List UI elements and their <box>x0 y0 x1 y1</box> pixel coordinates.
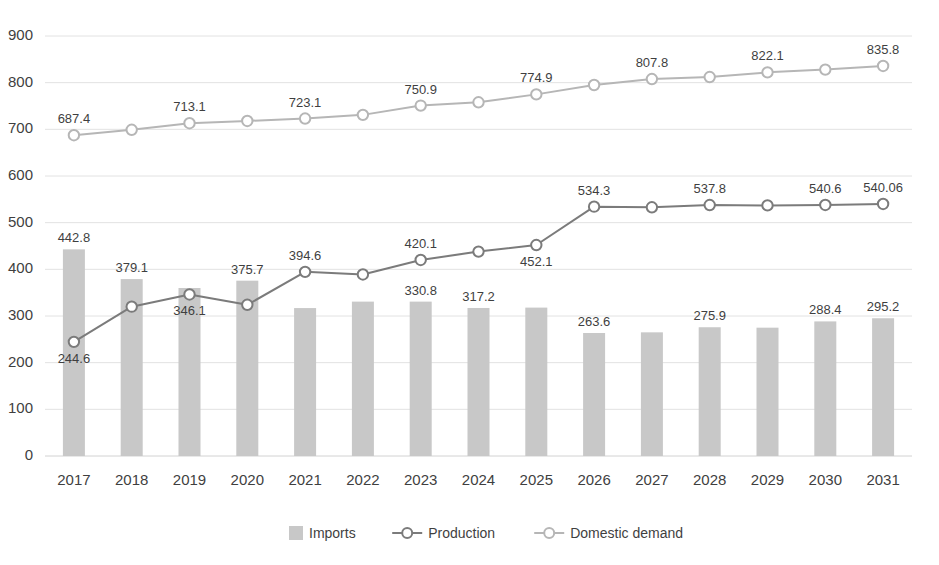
data-label-imports: 375.7 <box>231 262 264 277</box>
y-axis-tick-label: 400 <box>8 259 33 276</box>
combo-chart: 0100200300400500600700800900 442.8379.13… <box>0 0 939 565</box>
data-label-imports: 275.9 <box>693 308 726 323</box>
x-axis-tick-label: 2021 <box>288 471 321 488</box>
marker-domestic-demand <box>416 100 426 110</box>
bar-imports <box>583 333 605 456</box>
marker-domestic-demand <box>358 110 368 120</box>
marker-domestic-demand <box>878 61 888 71</box>
marker-production <box>127 301 137 311</box>
marker-domestic-demand <box>242 116 252 126</box>
x-axis-tick-label: 2029 <box>751 471 784 488</box>
marker-domestic-demand <box>705 72 715 82</box>
legend-circle-marker-icon <box>402 528 412 538</box>
marker-domestic-demand <box>531 89 541 99</box>
data-label-domestic-demand: 723.1 <box>289 95 322 110</box>
marker-domestic-demand <box>127 125 137 135</box>
y-axis-tick-label: 800 <box>8 73 33 90</box>
data-label-production: 394.6 <box>289 248 322 263</box>
data-label-imports: 317.2 <box>462 289 495 304</box>
marker-production <box>878 199 888 209</box>
chart-legend[interactable]: ImportsProductionDomestic demand <box>289 525 683 541</box>
x-axis-tick-label: 2030 <box>809 471 842 488</box>
marker-production <box>184 289 194 299</box>
marker-domestic-demand <box>473 97 483 107</box>
marker-production <box>820 200 830 210</box>
data-label-imports: 295.2 <box>867 299 900 314</box>
x-axis-tick-label: 2024 <box>462 471 495 488</box>
marker-domestic-demand <box>300 113 310 123</box>
marker-production <box>242 300 252 310</box>
marker-domestic-demand <box>820 64 830 74</box>
data-label-imports: 442.8 <box>58 230 91 245</box>
marker-production <box>531 240 541 250</box>
y-axis-tick-label: 500 <box>8 213 33 230</box>
y-axis-tick-label: 0 <box>25 446 33 463</box>
data-label-imports: 263.6 <box>578 314 611 329</box>
legend-item-domestic-demand[interactable]: Domestic demand <box>534 525 683 541</box>
bar-imports <box>757 328 779 456</box>
data-label-production: 420.1 <box>404 236 437 251</box>
marker-production <box>300 267 310 277</box>
legend-swatch-icon <box>289 526 303 540</box>
data-label-domestic-demand: 835.8 <box>867 42 900 57</box>
marker-production <box>358 269 368 279</box>
y-axis-tick-label: 100 <box>8 399 33 416</box>
legend-label: Production <box>428 525 495 541</box>
data-label-production: 540.06 <box>863 180 903 195</box>
data-label-domestic-demand: 822.1 <box>751 48 784 63</box>
data-label-domestic-demand: 807.8 <box>636 55 669 70</box>
x-axis-tick-label: 2020 <box>231 471 264 488</box>
marker-production <box>473 246 483 256</box>
marker-domestic-demand <box>762 67 772 77</box>
marker-production <box>69 337 79 347</box>
legend-item-production[interactable]: Production <box>392 525 495 541</box>
legend-label: Imports <box>309 525 356 541</box>
marker-production <box>705 200 715 210</box>
x-axis-tick-label: 2018 <box>115 471 148 488</box>
bar-imports <box>699 327 721 456</box>
x-axis-tick-labels: 2017201820192020202120222023202420252026… <box>57 471 900 488</box>
y-axis-tick-label: 600 <box>8 166 33 183</box>
bar-imports <box>525 308 547 456</box>
marker-production <box>416 255 426 265</box>
x-axis-tick-label: 2022 <box>346 471 379 488</box>
data-label-production: 537.8 <box>693 181 726 196</box>
data-label-production: 346.1 <box>173 303 206 318</box>
data-label-domestic-demand: 687.4 <box>58 111 91 126</box>
marker-production <box>762 200 772 210</box>
imports-bar-series <box>63 249 894 456</box>
y-axis-tick-label: 700 <box>8 119 33 136</box>
x-axis-tick-label: 2031 <box>866 471 899 488</box>
y-axis-tick-label: 200 <box>8 353 33 370</box>
data-label-production: 452.1 <box>520 254 553 269</box>
bar-imports <box>294 308 316 456</box>
x-axis-tick-label: 2026 <box>577 471 610 488</box>
marker-domestic-demand <box>184 118 194 128</box>
bar-imports <box>641 332 663 456</box>
legend-item-imports[interactable]: Imports <box>289 525 356 541</box>
x-axis-tick-label: 2017 <box>57 471 90 488</box>
y-axis-tick-labels: 0100200300400500600700800900 <box>8 26 33 463</box>
data-label-domestic-demand: 750.9 <box>404 82 437 97</box>
data-label-production: 244.6 <box>58 351 91 366</box>
legend-label: Domestic demand <box>570 525 683 541</box>
y-axis-tick-label: 300 <box>8 306 33 323</box>
x-axis-tick-label: 2028 <box>693 471 726 488</box>
bar-imports <box>872 318 894 456</box>
chart-container: 0100200300400500600700800900 442.8379.13… <box>0 0 939 565</box>
x-axis-tick-label: 2023 <box>404 471 437 488</box>
data-label-production: 534.3 <box>578 183 611 198</box>
data-label-production: 540.6 <box>809 181 842 196</box>
x-axis-tick-label: 2019 <box>173 471 206 488</box>
y-axis-tick-label: 900 <box>8 26 33 43</box>
data-label-domestic-demand: 774.9 <box>520 70 553 85</box>
x-axis-tick-label: 2025 <box>520 471 553 488</box>
marker-production <box>647 202 657 212</box>
data-label-imports: 379.1 <box>115 260 148 275</box>
marker-domestic-demand <box>69 130 79 140</box>
data-label-domestic-demand: 713.1 <box>173 99 206 114</box>
marker-domestic-demand <box>647 74 657 84</box>
marker-production <box>589 201 599 211</box>
legend-circle-marker-icon <box>544 528 554 538</box>
bar-imports <box>352 302 374 456</box>
